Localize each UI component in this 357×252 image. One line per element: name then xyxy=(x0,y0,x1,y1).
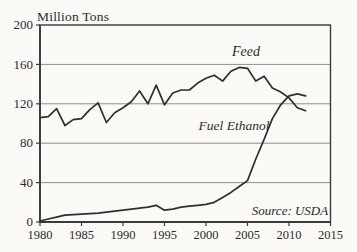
y-tick-label: 160 xyxy=(14,57,34,72)
x-tick-label: 1995 xyxy=(152,228,177,242)
y-tick-label: 200 xyxy=(14,17,34,32)
feed-line xyxy=(40,67,306,125)
axis-ticks-group xyxy=(36,25,331,226)
x-tick-label: 2000 xyxy=(194,228,219,242)
x-tick-label: 2005 xyxy=(235,228,260,242)
x-tick-label: 1980 xyxy=(28,228,53,242)
x-tick-label: 2015 xyxy=(318,228,343,242)
gridlines-group xyxy=(40,64,331,182)
fuel-ethanol-series-label: Fuel Ethanol xyxy=(199,118,270,134)
x-tick-label: 1985 xyxy=(69,228,94,242)
y-tick-label: 0 xyxy=(27,214,34,229)
x-tick-label: 1990 xyxy=(111,228,136,242)
x-tick-label: 2010 xyxy=(277,228,302,242)
y-axis-title: Million Tons xyxy=(37,9,109,25)
plot-border xyxy=(40,25,331,222)
source-note: Source: USDA xyxy=(252,203,328,219)
corn-use-chart-figure: 1980198519901995200020052010201504080120… xyxy=(0,0,357,252)
y-tick-label: 120 xyxy=(14,96,34,111)
y-tick-label: 80 xyxy=(20,135,33,150)
feed-series-label: Feed xyxy=(232,44,260,60)
fuel-ethanol-line xyxy=(40,94,306,221)
y-tick-label: 40 xyxy=(20,175,33,190)
